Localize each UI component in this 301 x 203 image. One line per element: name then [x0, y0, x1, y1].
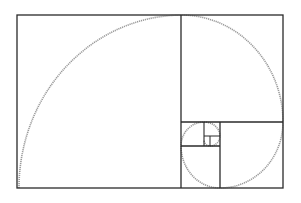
- background: [0, 0, 301, 203]
- golden-spiral-diagram: [0, 0, 301, 203]
